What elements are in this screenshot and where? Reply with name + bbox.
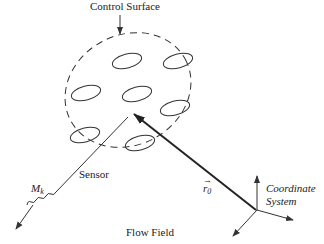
- sensor-ellipse: [124, 132, 157, 153]
- r0-label: → r0: [203, 182, 211, 196]
- mk-label: Mk: [31, 182, 44, 196]
- sensor-ellipse: [121, 83, 154, 104]
- diagram-canvas: [0, 0, 324, 244]
- sensor-label: Sensor: [79, 168, 109, 180]
- coordinate-system-label-line2: System: [266, 195, 297, 207]
- sensor-ellipse: [111, 50, 144, 71]
- axis-right: [257, 210, 293, 220]
- control-surface-label: Control Surface: [90, 0, 160, 12]
- mk-main: M: [31, 182, 40, 194]
- coordinate-system-label-line1: Coordinate: [266, 182, 316, 194]
- sensor-ellipse: [159, 97, 192, 118]
- sensor-ellipse: [69, 124, 102, 145]
- flow-field-label: Flow Field: [126, 226, 174, 238]
- sensor-ellipses: [69, 50, 195, 153]
- sensor-ellipse: [162, 50, 195, 71]
- axis-down-left: [233, 210, 257, 236]
- r0-subscript: 0: [207, 187, 211, 196]
- mk-subscript: k: [40, 187, 44, 196]
- vector-arrow-icon: →: [203, 175, 212, 185]
- sensor-ellipse: [70, 82, 103, 103]
- position-vector-r0: [134, 114, 256, 210]
